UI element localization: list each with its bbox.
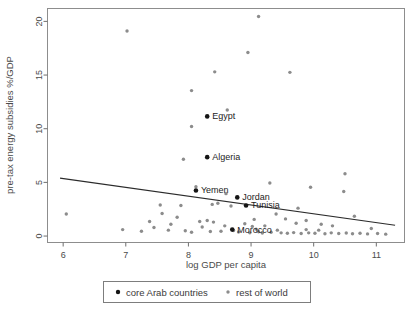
data-point-tunisia xyxy=(244,203,249,208)
legend-label-rest-of-world: rest of world xyxy=(236,287,288,298)
data-point-rest-of-world xyxy=(320,223,323,226)
data-point-rest-of-world xyxy=(148,220,151,223)
data-point-rest-of-world xyxy=(274,212,277,215)
y-tick-label: 5 xyxy=(34,180,44,185)
data-point-rest-of-world xyxy=(246,51,249,54)
data-point-rest-of-world xyxy=(198,220,201,223)
data-point-rest-of-world xyxy=(182,158,185,161)
data-point-morocco xyxy=(230,227,235,232)
data-point-rest-of-world xyxy=(323,232,326,235)
data-point-rest-of-world xyxy=(184,229,187,232)
y-tick-label: 15 xyxy=(34,70,44,80)
data-point-rest-of-world xyxy=(351,232,354,235)
data-point-rest-of-world xyxy=(343,172,346,175)
data-point-rest-of-world xyxy=(229,204,232,207)
data-point-rest-of-world xyxy=(190,125,193,128)
data-point-rest-of-world xyxy=(159,203,162,206)
data-point-rest-of-world xyxy=(304,219,307,222)
y-tick-label: 20 xyxy=(34,16,44,26)
data-point-rest-of-world xyxy=(268,181,271,184)
data-point-rest-of-world xyxy=(167,228,170,231)
plot-frame xyxy=(48,9,405,243)
y-axis-ticks: 05101520 xyxy=(34,16,48,238)
data-point-rest-of-world xyxy=(284,217,287,220)
legend-marker-core-arab-countries xyxy=(116,290,120,294)
data-point-rest-of-world xyxy=(213,70,216,73)
data-point-rest-of-world xyxy=(211,203,214,206)
data-point-rest-of-world xyxy=(216,202,219,205)
data-point-jordan xyxy=(235,195,240,200)
data-point-rest-of-world xyxy=(190,89,193,92)
point-label-yemen: Yemen xyxy=(201,185,229,195)
legend-marker-rest-of-world xyxy=(226,290,229,293)
data-point-rest-of-world xyxy=(384,232,387,235)
data-point-rest-of-world xyxy=(276,228,279,231)
data-point-rest-of-world xyxy=(121,228,124,231)
data-point-rest-of-world xyxy=(345,231,348,234)
data-point-rest-of-world xyxy=(309,186,312,189)
data-point-rest-of-world xyxy=(160,212,163,215)
data-point-rest-of-world xyxy=(219,230,222,233)
data-point-rest-of-world xyxy=(288,71,291,74)
data-point-rest-of-world xyxy=(194,185,197,188)
data-point-rest-of-world xyxy=(307,231,310,234)
x-tick-label: 8 xyxy=(186,250,191,260)
data-point-rest-of-world xyxy=(313,232,316,235)
data-point-rest-of-world xyxy=(286,232,289,235)
y-tick-label: 10 xyxy=(34,124,44,134)
point-label-tunisia: Tunisia xyxy=(251,200,280,210)
x-axis-title: log GDP per capita xyxy=(186,259,267,270)
data-point-rest-of-world xyxy=(179,204,182,207)
data-point-rest-of-world xyxy=(317,228,320,231)
legend-label-core-arab-countries: core Arab countries xyxy=(126,287,208,298)
data-point-rest-of-world xyxy=(353,215,356,218)
data-point-rest-of-world xyxy=(366,232,369,235)
data-point-rest-of-world xyxy=(212,220,215,223)
data-point-algeria xyxy=(205,155,210,160)
data-point-rest-of-world xyxy=(279,231,282,234)
data-point-rest-of-world xyxy=(358,232,361,235)
y-axis-title: pre-tax energy subsidies %/GDP xyxy=(4,56,15,194)
data-point-rest-of-world xyxy=(331,224,334,227)
data-point-rest-of-world xyxy=(342,190,345,193)
series-rest-of-world-points xyxy=(65,15,388,236)
data-point-rest-of-world xyxy=(175,216,178,219)
data-point-rest-of-world xyxy=(299,232,302,235)
country-labels: EgyptAlgeriaYemenJordanTunisiaMorocco xyxy=(201,111,280,234)
data-point-rest-of-world xyxy=(304,228,307,231)
data-point-rest-of-world xyxy=(330,231,333,234)
data-point-rest-of-world xyxy=(370,227,373,230)
data-point-rest-of-world xyxy=(376,232,379,235)
data-point-rest-of-world xyxy=(169,223,172,226)
data-point-rest-of-world xyxy=(65,212,68,215)
point-label-algeria: Algeria xyxy=(212,152,240,162)
data-point-rest-of-world xyxy=(140,230,143,233)
point-label-egypt: Egypt xyxy=(212,111,236,121)
series-core-arab-points xyxy=(194,114,249,232)
data-point-yemen xyxy=(194,188,199,193)
data-point-rest-of-world xyxy=(257,15,260,18)
data-point-rest-of-world xyxy=(337,232,340,235)
data-point-rest-of-world xyxy=(292,231,295,234)
data-point-rest-of-world xyxy=(223,224,226,227)
x-tick-label: 11 xyxy=(372,250,381,260)
y-tick-label: 0 xyxy=(34,234,44,239)
data-point-rest-of-world xyxy=(296,206,299,209)
x-axis-ticks: 67891011 xyxy=(61,243,381,260)
x-tick-label: 6 xyxy=(61,250,66,260)
data-point-rest-of-world xyxy=(206,219,209,222)
x-tick-label: 7 xyxy=(123,250,128,260)
data-point-rest-of-world xyxy=(209,230,212,233)
data-point-rest-of-world xyxy=(125,29,128,32)
data-point-rest-of-world xyxy=(152,226,155,229)
x-tick-label: 9 xyxy=(249,250,254,260)
x-tick-label: 10 xyxy=(309,250,319,260)
point-label-morocco: Morocco xyxy=(237,225,272,235)
chart-canvas: 67891011 05101520 EgyptAlgeriaYemenJorda… xyxy=(0,0,412,311)
data-point-rest-of-world xyxy=(201,225,204,228)
data-point-rest-of-world xyxy=(190,231,193,234)
data-point-egypt xyxy=(205,114,210,119)
data-point-rest-of-world xyxy=(294,221,297,224)
data-point-rest-of-world xyxy=(252,218,255,221)
chart-legend: core Arab countries rest of world xyxy=(104,282,311,303)
